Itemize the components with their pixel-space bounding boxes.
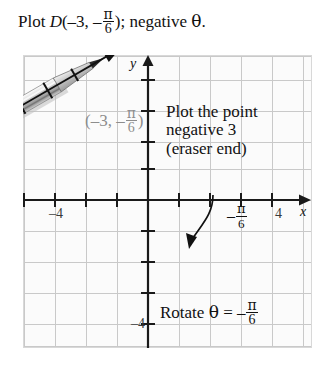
page-title: Plot D(–3, –π6); negative θ. xyxy=(18,8,318,46)
point-label-close-paren: ) xyxy=(138,111,144,130)
point-name: D xyxy=(50,12,62,31)
title-period: . xyxy=(202,12,206,31)
rotate-label-text: Rotate xyxy=(160,303,209,322)
point-label-denominator: 6 xyxy=(126,120,137,135)
angle-label-denominator: 6 xyxy=(236,216,247,230)
angle-label-sign: – xyxy=(227,207,235,224)
title-theta-denominator: 6 xyxy=(103,21,114,36)
point-coordinate-label: (–3, –π6) xyxy=(85,107,144,136)
x-tick-label-negative-4: –4 xyxy=(49,207,63,221)
coordinate-plane: y x –4 4 –4 (–3, –π6) Plot the point neg… xyxy=(23,55,312,348)
x-tick-label-4: 4 xyxy=(275,207,282,221)
point-label-x: –3 xyxy=(91,111,108,130)
rotate-label-sign: – xyxy=(237,303,246,322)
angle-label-fraction: π6 xyxy=(236,202,247,230)
rotate-label-equals: = xyxy=(219,303,237,322)
rotate-label-numerator: π xyxy=(246,298,257,312)
title-x-value: –3 xyxy=(68,12,85,31)
title-prefix: Plot xyxy=(18,12,50,31)
point-label-fraction: π6 xyxy=(126,106,137,135)
callout-note-line-3: (eraser end) xyxy=(166,140,258,158)
x-axis-label: x xyxy=(300,205,306,219)
angle-arc-path xyxy=(191,195,213,241)
callout-note-line-2: negative 3 xyxy=(166,121,258,139)
title-theta-symbol: θ xyxy=(191,11,201,31)
angle-label-numerator: π xyxy=(236,202,247,215)
point-label-sign: – xyxy=(116,111,125,130)
rotate-label-fraction: π6 xyxy=(246,298,257,327)
title-theta-sign: – xyxy=(93,12,102,31)
callout-note: Plot the point negative 3 (eraser end) xyxy=(166,103,258,158)
callout-note-line-1: Plot the point xyxy=(166,103,258,121)
rotate-label-theta: θ xyxy=(209,302,219,322)
title-comma: , xyxy=(85,12,94,31)
rotate-instruction-label: Rotate θ = –π6 xyxy=(160,299,259,328)
rotate-label-denominator: 6 xyxy=(246,312,257,327)
point-label-comma: , xyxy=(108,111,117,130)
y-tick-label-negative-4: –4 xyxy=(131,317,145,331)
title-theta-numerator: π xyxy=(103,7,114,21)
title-theta-fraction: π6 xyxy=(103,7,114,36)
angle-measure-label: –π6 xyxy=(227,203,248,231)
point-label-numerator: π xyxy=(126,106,137,120)
title-suffix: ; negative xyxy=(120,12,191,31)
y-axis-label: y xyxy=(130,57,136,71)
